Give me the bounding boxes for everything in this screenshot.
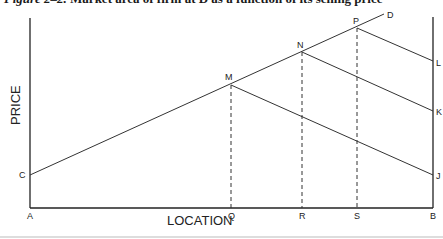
line-mj bbox=[231, 85, 433, 175]
line-nk bbox=[302, 52, 433, 111]
line-pl bbox=[357, 28, 433, 61]
label-j: J bbox=[436, 171, 441, 181]
label-a: A bbox=[27, 211, 33, 221]
label-l: L bbox=[436, 58, 441, 68]
y-axis-label: PRICE bbox=[8, 85, 23, 125]
label-r: R bbox=[299, 211, 306, 221]
label-m: M bbox=[225, 72, 233, 82]
label-k: K bbox=[436, 107, 442, 117]
market-area-diagram: C A M N P D L K J B Q R S LOCATION PRICE bbox=[0, 0, 443, 239]
label-b: B bbox=[430, 211, 436, 221]
label-s: S bbox=[354, 211, 360, 221]
line-cd bbox=[30, 14, 384, 175]
label-d: D bbox=[387, 10, 394, 20]
x-axis-label: LOCATION bbox=[167, 213, 233, 228]
label-n: N bbox=[297, 40, 304, 50]
label-p: P bbox=[353, 16, 359, 26]
label-c: C bbox=[19, 170, 26, 180]
